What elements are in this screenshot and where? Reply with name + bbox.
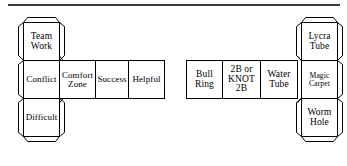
face-label-lycra-tube: Lycra Tube	[301, 22, 338, 61]
face-label-magic-carpet: Magic Carpet	[301, 60, 338, 99]
face-label-water-tube: Water Tube	[260, 60, 298, 99]
face-label-conflict: Conflict	[23, 60, 60, 99]
face-label-worm-hole: Worm Hole	[301, 98, 338, 137]
face-label-bull-ring: Bull Ring	[186, 60, 223, 99]
face-label-success: Success	[95, 60, 129, 99]
tab-right-team-work	[60, 23, 65, 61]
face-label-helpful: Helpful	[128, 60, 165, 99]
face-label-comfort-zone: Comfort Zone	[59, 60, 96, 99]
tab-bottom-worm-hole	[302, 137, 338, 142]
tab-right-difficult	[60, 99, 65, 137]
tab-right-worm-hole	[338, 99, 343, 137]
face-label-team-work: Team Work	[23, 22, 60, 61]
tab-right-magic-carpet	[338, 61, 343, 99]
face-label-difficult: Difficult	[23, 98, 60, 137]
tab-bottom-difficult	[24, 137, 60, 142]
diagram-canvas: Team Work Conflict Difficult Comfort Zon…	[0, 0, 347, 166]
face-label-2b-or-knot-2b: 2B or KNOT 2B	[222, 60, 261, 99]
tab-right-lycra-tube	[338, 23, 343, 61]
